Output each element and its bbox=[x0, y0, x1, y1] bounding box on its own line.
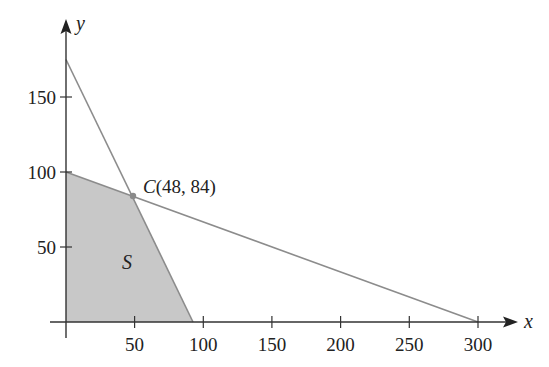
x-tick-label: 250 bbox=[395, 334, 424, 355]
x-tick-label: 50 bbox=[125, 334, 144, 355]
x-tick-label: 100 bbox=[189, 334, 218, 355]
point-c-label: C(48, 84) bbox=[143, 176, 216, 198]
x-tick-label: 200 bbox=[326, 334, 355, 355]
point-c-letter: C bbox=[143, 176, 156, 197]
x-axis-label: x bbox=[523, 310, 533, 332]
point-c-marker bbox=[130, 193, 136, 199]
region-s-label: S bbox=[122, 251, 132, 273]
y-axis-label: y bbox=[74, 12, 85, 35]
x-tick-label: 150 bbox=[258, 334, 287, 355]
feasible-region-diagram: 50 100 150 200 250 300 50 100 150 x y C(… bbox=[0, 0, 549, 367]
point-c-coords: (48, 84) bbox=[156, 176, 216, 198]
y-tick-label: 50 bbox=[37, 237, 56, 258]
x-tick-label: 300 bbox=[464, 334, 493, 355]
y-tick-label: 100 bbox=[28, 162, 57, 183]
y-tick-label: 150 bbox=[28, 87, 57, 108]
